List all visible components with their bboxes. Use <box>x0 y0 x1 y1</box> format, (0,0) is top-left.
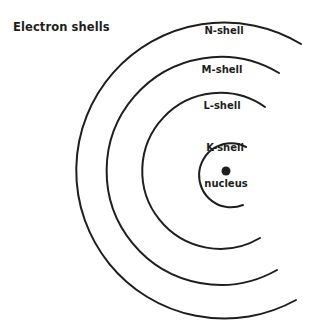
nucleus-label: nucleus <box>204 178 247 189</box>
nucleus-dot <box>222 167 231 176</box>
k-shell-label: K-shell <box>206 142 244 153</box>
n-shell-label: N-shell <box>204 25 243 36</box>
m-shell-arc <box>107 57 279 285</box>
l-shell-arc <box>142 93 265 249</box>
m-shell-label: M-shell <box>202 64 243 75</box>
electron-shells-diagram <box>0 0 316 331</box>
l-shell-label: L-shell <box>203 100 240 111</box>
